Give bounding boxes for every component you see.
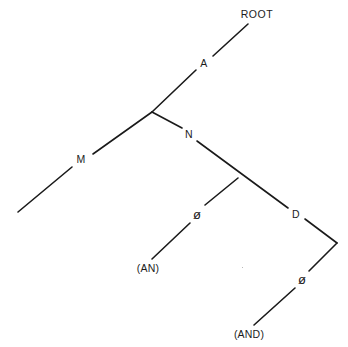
node-label-m: M [76, 154, 85, 165]
tree-edges-canvas [0, 0, 348, 347]
edge-phi2-and [254, 288, 295, 325]
parse-tree-figure: ROOT A M N ø D ø (AN) (AND) [0, 0, 348, 347]
node-label-nullset-1: ø [193, 208, 201, 221]
node-label-an: (AN) [137, 263, 159, 274]
edge-phi1-an [152, 223, 190, 259]
edge-junction-m [93, 112, 152, 154]
edge-junction-n [152, 112, 182, 128]
node-label-and: (AND) [234, 329, 264, 340]
edge-n-d [197, 141, 288, 208]
node-label-d: D [292, 209, 300, 220]
node-label-a: A [200, 58, 207, 69]
edge-vertex-phi2 [309, 243, 337, 271]
node-label-root: ROOT [241, 9, 274, 20]
page-speck [242, 267, 243, 268]
edge-root-a [213, 24, 248, 56]
node-label-nullset-2: ø [298, 273, 306, 286]
edge-d-vertex [305, 219, 337, 243]
edge-a-junction [152, 70, 196, 112]
edge-m-leaf [18, 167, 72, 212]
node-label-n: N [185, 129, 193, 140]
edge-junction-phi1 [205, 178, 238, 205]
